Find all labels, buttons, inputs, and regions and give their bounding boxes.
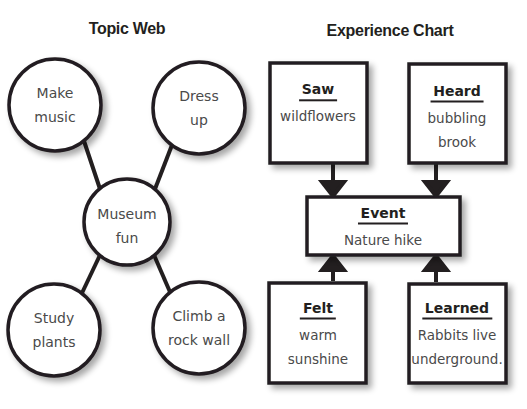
box-heading-heard: Heard bbox=[430, 81, 484, 103]
center-museum-fun: Museum fun bbox=[97, 202, 156, 250]
box-learned-text: Learned Rabbits live underground. bbox=[411, 296, 502, 371]
node-make-music: Make music bbox=[34, 81, 75, 129]
connector-dress-up bbox=[155, 145, 172, 189]
arrow-down-heard bbox=[425, 182, 447, 196]
connector-make-music bbox=[84, 141, 100, 189]
connector-climb bbox=[154, 255, 170, 292]
box-heard-text: Heard bubbling brook bbox=[428, 79, 487, 154]
box-heading-event: Event bbox=[358, 203, 409, 225]
connector-study-plants bbox=[82, 255, 100, 293]
box-event-text: Event Nature hike bbox=[344, 201, 422, 252]
node-climb-rock-wall: Climb a rock wall bbox=[168, 304, 230, 352]
arrow-up-felt bbox=[322, 256, 344, 270]
arrow-down-saw bbox=[322, 182, 344, 196]
node-dress-up: Dress up bbox=[179, 84, 218, 132]
node-study-plants: Study plants bbox=[32, 306, 75, 354]
box-heading-saw: Saw bbox=[299, 79, 337, 101]
box-heading-felt: Felt bbox=[300, 298, 336, 320]
box-saw-text: Saw wildflowers bbox=[280, 77, 356, 128]
experience-chart-title: Experience Chart bbox=[327, 22, 454, 40]
box-heading-learned: Learned bbox=[422, 298, 492, 320]
topic-web-title: Topic Web bbox=[89, 20, 166, 38]
arrow-up-learned bbox=[425, 256, 447, 270]
box-felt-text: Felt warm sunshine bbox=[288, 296, 348, 371]
